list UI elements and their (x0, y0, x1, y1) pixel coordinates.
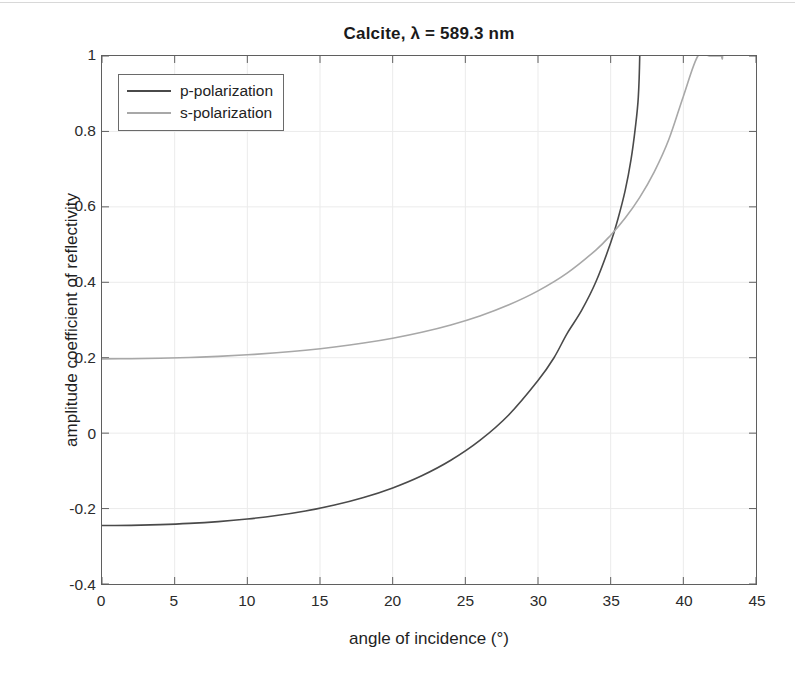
x-tick-label: 25 (445, 592, 485, 610)
legend-line-swatch (127, 90, 171, 92)
x-tick-label: 5 (154, 592, 194, 610)
x-tick-label: 35 (591, 592, 631, 610)
x-tick-label: 45 (737, 592, 777, 610)
x-tick-label: 40 (664, 592, 704, 610)
x-axis-tick-labels: 051015202530354045 (101, 592, 757, 616)
plot-inner (102, 56, 756, 584)
x-tick-label: 30 (518, 592, 558, 610)
legend-line-swatch (127, 112, 171, 114)
x-tick-label: 15 (300, 592, 340, 610)
x-tick-label: 0 (81, 592, 121, 610)
legend-entry[interactable]: s-polarization (127, 102, 273, 124)
y-axis-title: amplitude coefficient of reflectivity (62, 60, 82, 580)
figure-canvas: Calcite, λ = 589.3 nm -0.4-0.200.20.40.6… (0, 0, 795, 682)
scan-artifact-line (0, 2, 795, 3)
x-tick-label: 10 (227, 592, 267, 610)
legend-label: s-polarization (180, 104, 272, 122)
chart-title: Calcite, λ = 589.3 nm (101, 24, 757, 44)
plot-area: p-polarizations-polarization (101, 55, 757, 585)
plot-svg (102, 56, 756, 584)
legend-entry[interactable]: p-polarization (127, 80, 273, 102)
x-tick-label: 20 (373, 592, 413, 610)
x-axis-title: angle of incidence (°) (101, 629, 757, 649)
legend-label: p-polarization (180, 82, 273, 100)
legend-box: p-polarizations-polarization (118, 74, 284, 131)
